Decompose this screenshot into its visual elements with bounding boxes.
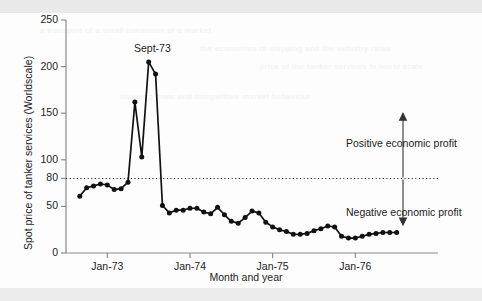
- series-marker: [105, 182, 110, 187]
- series-marker: [77, 194, 82, 199]
- series-marker: [243, 215, 248, 220]
- series-marker: [91, 183, 96, 188]
- series-marker: [153, 72, 158, 77]
- series-marker: [332, 224, 337, 229]
- series-marker: [181, 208, 186, 213]
- x-tick-label: Jan-76: [339, 260, 371, 272]
- series-marker: [394, 230, 399, 235]
- series-marker: [126, 180, 131, 185]
- series-marker: [346, 236, 351, 241]
- chart-figure: a transport of a small consumer of a mar…: [0, 0, 482, 301]
- series-marker: [374, 231, 379, 236]
- y-axis-title: Spot price of tanker services (Worldscal…: [22, 56, 34, 250]
- series-marker: [98, 182, 103, 187]
- series-marker: [208, 211, 213, 216]
- series-marker: [250, 209, 255, 214]
- series-marker: [174, 208, 179, 213]
- series-marker: [318, 226, 323, 231]
- series-marker: [270, 224, 275, 229]
- series-marker: [112, 187, 117, 192]
- series-marker: [291, 232, 296, 237]
- series-marker: [277, 227, 282, 232]
- annotation-negative-economic-profit: Negative economic profit: [346, 206, 462, 218]
- series-marker: [353, 236, 358, 241]
- series-marker: [201, 209, 206, 214]
- x-tick-label: Jan-74: [174, 260, 206, 272]
- series-marker: [236, 221, 241, 226]
- series-marker: [263, 220, 268, 225]
- x-tick-label: Jan-73: [91, 260, 123, 272]
- series-marker: [84, 185, 89, 190]
- series-marker: [360, 234, 365, 239]
- chart-plot-area: [0, 0, 482, 301]
- arrow-head-up-icon: [400, 113, 407, 120]
- series-marker: [229, 219, 234, 224]
- arrow-head-down-icon: [400, 218, 407, 225]
- x-axis-title: Month and year: [210, 271, 283, 283]
- series-marker: [194, 206, 199, 211]
- series-marker: [367, 232, 372, 237]
- series-marker: [325, 223, 330, 228]
- series-marker: [215, 205, 220, 210]
- series-marker: [146, 59, 151, 64]
- series-marker: [312, 228, 317, 233]
- x-tick-marks: [107, 253, 355, 258]
- series-marker: [387, 230, 392, 235]
- series-marker: [380, 230, 385, 235]
- annotation-positive-economic-profit: Positive economic profit: [346, 137, 457, 149]
- series-marker: [167, 210, 172, 215]
- series-marker: [188, 206, 193, 211]
- series-marker: [305, 231, 310, 236]
- series-marker: [284, 229, 289, 234]
- series-marker: [222, 212, 227, 217]
- series-marker: [132, 100, 137, 105]
- series-marker: [119, 186, 124, 191]
- y-tick-label: 250: [24, 13, 58, 25]
- annotation-sept-73: Sept-73: [134, 42, 171, 54]
- y-tick-marks: [61, 20, 66, 253]
- series-marker: [339, 234, 344, 239]
- series-marker: [256, 210, 261, 215]
- series-marker: [160, 203, 165, 208]
- series-marker: [298, 232, 303, 237]
- series-marker: [139, 155, 144, 160]
